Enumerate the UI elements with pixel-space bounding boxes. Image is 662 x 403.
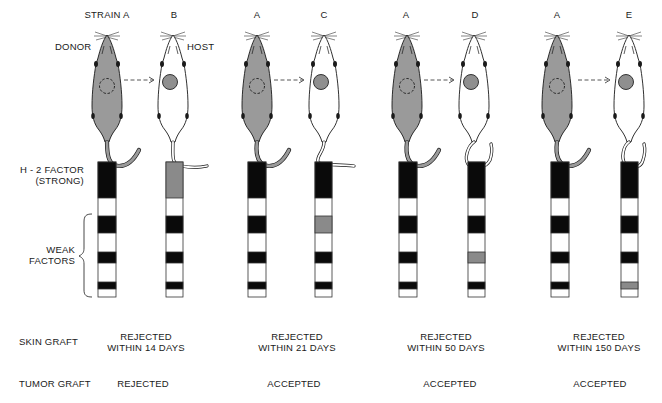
antigen-bar-donor-3 — [399, 162, 417, 297]
tumor-result-2: ACCEPTED — [267, 378, 320, 389]
tumor-result-3: ACCEPTED — [423, 378, 476, 389]
antigen-bar-host-b — [166, 162, 183, 297]
skin-result-4-line1: REJECTED — [557, 331, 640, 342]
donor-mouse-4 — [541, 32, 589, 166]
skin-result-2: REJECTED WITHIN 21 DAYS — [258, 331, 336, 353]
skin-result-1-line1: REJECTED — [107, 331, 185, 342]
skin-graft-label: SKIN GRAFT — [19, 336, 78, 347]
h2-factor-line2: (STRONG) — [0, 175, 84, 186]
antigen-bar-host-d — [468, 162, 485, 297]
antigen-bar-host-e — [621, 162, 638, 297]
donor-mouse-2 — [241, 32, 289, 166]
skin-result-4-line2: WITHIN 150 DAYS — [557, 342, 640, 353]
host-mouse-b — [157, 32, 207, 168]
tumor-graft-label: TUMOR GRAFT — [19, 378, 91, 389]
arrow-3 — [424, 77, 454, 83]
tumor-result-1: REJECTED — [117, 378, 169, 389]
skin-result-4: REJECTED WITHIN 150 DAYS — [557, 331, 640, 353]
weak-factors-line1: WEAK — [0, 244, 75, 255]
skin-result-2-line1: REJECTED — [258, 331, 336, 342]
h2-factor-line1: H - 2 FACTOR — [0, 164, 84, 175]
host-mouse-c — [308, 32, 354, 166]
antigen-bar-donor-4 — [551, 162, 569, 297]
arrow-1 — [124, 77, 154, 83]
tumor-result-4: ACCEPTED — [573, 378, 626, 389]
h2-factor-label: H - 2 FACTOR (STRONG) — [0, 164, 84, 186]
skin-result-1-line2: WITHIN 14 DAYS — [107, 342, 185, 353]
weak-factors-brace — [79, 214, 92, 297]
skin-result-1: REJECTED WITHIN 14 DAYS — [107, 331, 185, 353]
donor-mouse-1 — [91, 32, 139, 166]
weak-factors-label: WEAK FACTORS — [0, 244, 75, 266]
host-mouse-d — [458, 32, 491, 167]
antigen-bar-donor-1 — [98, 162, 116, 297]
weak-factors-line2: FACTORS — [0, 255, 75, 266]
skin-result-3-line1: REJECTED — [407, 331, 485, 342]
arrow-4 — [578, 77, 610, 83]
skin-result-2-line2: WITHIN 21 DAYS — [258, 342, 336, 353]
antigen-bar-donor-2 — [248, 162, 266, 297]
antigen-bar-host-c — [315, 162, 332, 297]
host-mouse-e — [613, 32, 645, 167]
arrow-2 — [274, 77, 304, 83]
donor-mouse-3 — [391, 32, 439, 166]
skin-result-3: REJECTED WITHIN 50 DAYS — [407, 331, 485, 353]
skin-result-3-line2: WITHIN 50 DAYS — [407, 342, 485, 353]
